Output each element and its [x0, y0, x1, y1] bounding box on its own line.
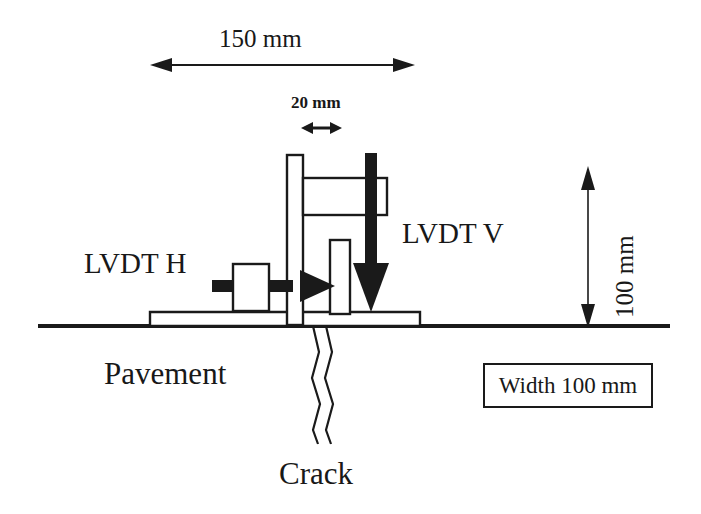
label-pavement: Pavement: [104, 358, 226, 389]
width-note-text: Width 100 mm: [485, 365, 651, 406]
inner-column: [330, 240, 350, 314]
crack-outline: [312, 326, 333, 444]
dimension-label-150mm: 150 mm: [219, 26, 302, 51]
dimension-arrow-150mm: [150, 58, 415, 72]
dimension-label-20mm: 20 mm: [291, 94, 341, 111]
dimension-arrow-20mm: [301, 122, 342, 134]
base-plate: [150, 312, 420, 326]
label-lvdt-horizontal: LVDT H: [84, 249, 186, 278]
lvdt-h-body: [233, 264, 269, 311]
label-lvdt-vertical: LVDT V: [402, 219, 504, 248]
label-crack: Crack: [279, 458, 353, 489]
diagram-canvas: 150 mm 20 mm 100 mm LVDT H LVDT V Paveme…: [0, 0, 701, 514]
dimension-label-100mm: 100 mm: [612, 235, 637, 318]
dimension-arrow-100mm: [581, 166, 595, 328]
width-note-box: Width 100 mm: [483, 363, 653, 408]
